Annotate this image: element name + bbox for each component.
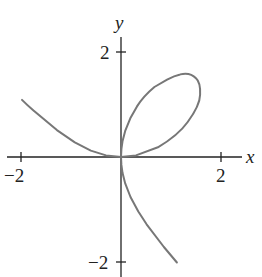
x-axis-label: x [245,146,255,167]
x-tick-label-neg2: −2 [4,165,24,186]
curve-left-branch [22,100,121,157]
y-tick-label-neg2: −2 [88,252,108,273]
y-tick-label-2: 2 [100,42,110,63]
curve-loop [121,74,200,157]
y-axis-label: y [113,12,124,33]
folium-chart: y x 2 −2 −2 2 [0,0,262,277]
curve-lower-branch [121,157,177,263]
x-tick-label-2: 2 [216,165,226,186]
